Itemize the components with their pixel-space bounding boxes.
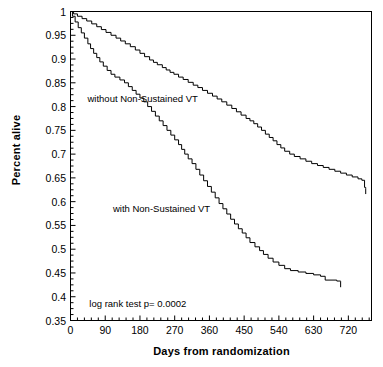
annotation-log-rank-test: log rank test p= 0.0002 (0, 298, 186, 309)
x-axis-ticks (71, 316, 370, 321)
annotation-with-nsvt: with Non-Sustained VT (113, 203, 210, 214)
plot-frame (71, 12, 372, 321)
y-axis-ticks (71, 12, 76, 321)
curve-with-nsvt (71, 12, 341, 288)
plot-area (0, 0, 383, 367)
survival-curve-figure: Percent alive 10.950.90.850.80.750.70.65… (0, 0, 383, 367)
annotation-without-nsvt: without Non-Sustained VT (0, 93, 198, 104)
